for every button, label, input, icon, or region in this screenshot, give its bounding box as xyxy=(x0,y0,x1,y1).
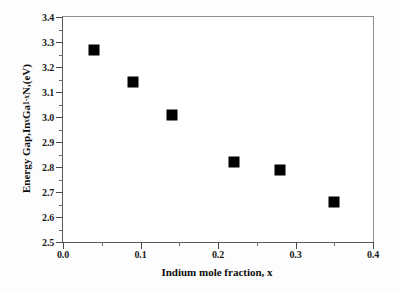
x-tick-label: 0.1 xyxy=(135,249,147,260)
y-tick-label: 2.9 xyxy=(42,137,54,148)
x-tick-major xyxy=(63,242,64,249)
y-tick-major xyxy=(56,242,63,243)
y-tick-label: 3.2 xyxy=(42,62,54,73)
y-tick-minor xyxy=(59,230,63,231)
data-point-marker xyxy=(275,164,286,175)
y-tick-label: 3.3 xyxy=(42,37,54,48)
y-tick-label: 3.4 xyxy=(42,12,54,23)
y-axis-title-prefix: Energy Gap,In xyxy=(20,123,32,193)
y-tick-major xyxy=(56,192,63,193)
y-tick-minor xyxy=(59,205,63,206)
x-tick-label: 0.3 xyxy=(290,249,302,260)
y-tick-major xyxy=(56,17,63,18)
y-tick-label: 2.5 xyxy=(42,237,54,248)
y-axis-title: Energy Gap,InxGa1-xN,(eV) xyxy=(18,16,34,241)
y-tick-major xyxy=(56,167,63,168)
y-tick-major xyxy=(56,67,63,68)
y-tick-major xyxy=(56,117,63,118)
y-axis-title-suffix: N,(eV) xyxy=(20,64,32,95)
y-tick-label: 2.6 xyxy=(42,212,54,223)
chart-figure: Energy Gap,InxGa1-xN,(eV) Indium mole fr… xyxy=(0,0,399,292)
x-tick-major xyxy=(296,242,297,249)
y-tick-minor xyxy=(59,105,63,106)
x-tick-minor xyxy=(102,242,103,246)
plot-area: 2.52.62.72.82.93.03.13.23.33.4 0.00.10.2… xyxy=(62,16,374,243)
x-tick-label: 0.0 xyxy=(57,249,69,260)
y-tick-major xyxy=(56,92,63,93)
y-axis-title-sub-x: x xyxy=(22,119,31,123)
y-tick-label: 3.0 xyxy=(42,112,54,123)
y-tick-major xyxy=(56,42,63,43)
x-tick-minor xyxy=(257,242,258,246)
x-tick-label: 0.4 xyxy=(367,249,379,260)
data-point-marker xyxy=(329,197,340,208)
data-point-marker xyxy=(89,44,100,55)
y-tick-label: 2.8 xyxy=(42,162,54,173)
data-point-marker xyxy=(166,109,177,120)
x-tick-major xyxy=(373,242,374,249)
x-tick-minor xyxy=(334,242,335,246)
y-tick-minor xyxy=(59,30,63,31)
y-tick-label: 3.1 xyxy=(42,87,54,98)
y-tick-major xyxy=(56,217,63,218)
data-point-marker xyxy=(228,157,239,168)
y-tick-minor xyxy=(59,180,63,181)
y-axis-title-sub-1mx: 1-x xyxy=(22,95,31,105)
x-tick-major xyxy=(218,242,219,249)
x-tick-major xyxy=(141,242,142,249)
x-tick-minor xyxy=(179,242,180,246)
y-tick-minor xyxy=(59,55,63,56)
x-tick-label: 0.2 xyxy=(212,249,224,260)
x-axis-title: Indium mole fraction, x xyxy=(62,266,372,278)
y-tick-major xyxy=(56,142,63,143)
data-point-marker xyxy=(127,77,138,88)
y-tick-minor xyxy=(59,80,63,81)
y-tick-minor xyxy=(59,155,63,156)
y-tick-label: 2.7 xyxy=(42,187,54,198)
y-axis-title-mid: Ga xyxy=(20,105,32,119)
y-tick-minor xyxy=(59,130,63,131)
